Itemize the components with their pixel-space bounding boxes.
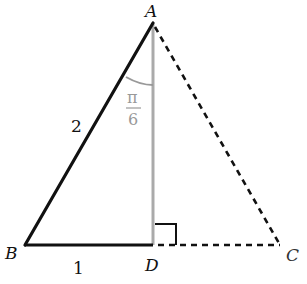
right-angle-mark: [155, 224, 176, 245]
segment-AC: [155, 27, 280, 245]
segment-AB: [25, 23, 153, 245]
label-B: B: [4, 243, 18, 263]
label-C: C: [286, 245, 299, 265]
angle-arc: [126, 77, 153, 85]
triangle-diagram: A B C D 2 1 π 6: [0, 0, 307, 284]
diagram-svg: A B C D 2 1 π 6: [0, 0, 307, 284]
label-A: A: [143, 1, 157, 21]
label-side-AB: 2: [71, 116, 82, 136]
label-side-BD: 1: [73, 258, 84, 278]
angle-numerator: π: [127, 88, 138, 107]
label-D: D: [144, 255, 159, 275]
angle-denominator: 6: [128, 110, 138, 129]
